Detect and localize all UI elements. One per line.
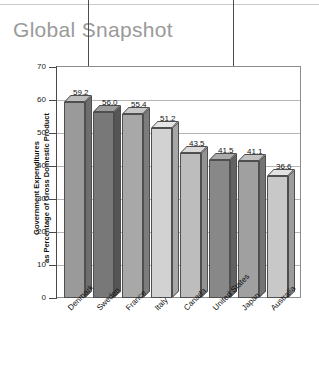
y-axis-title-line1: Government Expenditures xyxy=(32,141,41,235)
y-tick-0 xyxy=(49,298,56,299)
bar-canada xyxy=(180,153,201,298)
y-tick-label-70: 70 xyxy=(26,62,46,71)
bar-australia xyxy=(267,176,288,298)
bar-united-states xyxy=(209,160,230,298)
bar-value-australia: 36.6 xyxy=(276,162,292,171)
bar-value-denmark: 59.2 xyxy=(73,88,89,97)
bar-side-face xyxy=(114,105,121,298)
bar-front-face xyxy=(93,112,114,298)
bar-side-face xyxy=(201,146,208,298)
bar-side-face xyxy=(85,95,92,298)
bar-value-france: 55.4 xyxy=(131,100,147,109)
bar-side-face xyxy=(143,107,150,298)
bar-front-face xyxy=(64,102,85,298)
bar-side-face xyxy=(172,121,179,298)
bar-value-sweden: 56.0 xyxy=(102,98,118,107)
bar-side-face xyxy=(230,153,237,298)
top-scan-line xyxy=(0,4,319,5)
bar-side-face xyxy=(259,154,266,298)
bar-side-face xyxy=(288,169,295,298)
bar-front-face xyxy=(267,176,288,298)
bar-value-canada: 43.5 xyxy=(189,139,205,148)
bar-front-face xyxy=(180,153,201,298)
bar-sweden xyxy=(93,112,114,298)
bar-italy xyxy=(151,128,172,298)
bar-france xyxy=(122,114,143,298)
chart-root: Global Snapshot 70 60 50 40 30 20 10 0 G… xyxy=(0,0,319,380)
bar-front-face xyxy=(122,114,143,298)
bar-value-united-states: 41.5 xyxy=(218,146,234,155)
bar-denmark xyxy=(64,102,85,298)
bar-value-japan: 41.1 xyxy=(247,147,263,156)
bar-series xyxy=(56,66,301,299)
y-axis-title-line2: as Percentage of Gross Domestic Product xyxy=(42,113,51,263)
y-tick-70 xyxy=(49,67,56,68)
bar-front-face xyxy=(209,160,230,298)
y-axis-title: Government Expenditures as Percentage of… xyxy=(32,83,52,293)
y-tick-label-0: 0 xyxy=(26,293,46,302)
bar-front-face xyxy=(151,128,172,298)
bar-value-italy: 51.2 xyxy=(160,114,176,123)
